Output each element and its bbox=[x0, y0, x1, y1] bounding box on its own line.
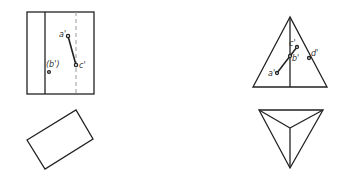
label-a-prime: a' bbox=[268, 69, 275, 78]
rotated-rectangle bbox=[27, 110, 93, 169]
label-d-prime: d' bbox=[311, 49, 318, 58]
label-c-prime: c' bbox=[289, 39, 296, 48]
label-a-prime: a' bbox=[59, 30, 66, 39]
label-c-prime: c' bbox=[79, 61, 86, 70]
line-ac bbox=[68, 36, 76, 65]
point-c bbox=[74, 63, 77, 66]
inverted-triangle bbox=[259, 110, 323, 168]
pyramid-top-view bbox=[259, 110, 323, 168]
projection-diagram: a' c' (b') a' b' c' d' bbox=[0, 0, 345, 189]
point-a bbox=[276, 72, 279, 75]
label-b-prime: b' bbox=[292, 54, 299, 63]
prism-front-view bbox=[27, 12, 94, 94]
label-b-prime: (b') bbox=[46, 60, 60, 69]
prism-top-view bbox=[27, 110, 93, 169]
point-b bbox=[48, 71, 51, 74]
point-c bbox=[296, 46, 299, 49]
prism-outline bbox=[27, 12, 94, 94]
point-a bbox=[66, 34, 69, 37]
